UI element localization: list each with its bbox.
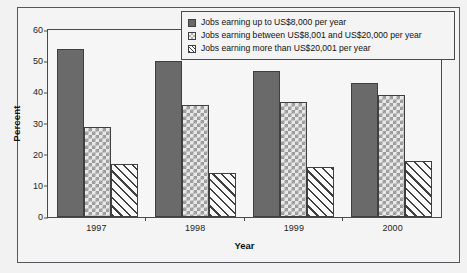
- legend-swatch-icon: [188, 19, 196, 27]
- x-axis-tick-label: 1998: [146, 223, 245, 233]
- legend-label: Jobs earning more than US$20,001 per yea…: [201, 44, 371, 53]
- bar: [57, 49, 84, 217]
- bar: [405, 161, 432, 217]
- legend-item: Jobs earning between US$8,001 and US$20,…: [188, 29, 448, 42]
- bar: [307, 167, 334, 217]
- y-axis-tick-label: 30: [33, 119, 48, 128]
- y-axis-tick-label: 10: [33, 181, 48, 190]
- chart-figure: Percent 0102030405060 1997199819992000 Y…: [0, 0, 467, 273]
- x-axis-tick-labels: 1997199819992000: [47, 223, 442, 233]
- y-axis-tick-label: 0: [38, 213, 48, 222]
- legend-label: Jobs earning up to US$8,000 per year: [201, 18, 346, 27]
- bar-group: [48, 30, 146, 217]
- y-axis-tick-label: 50: [33, 57, 48, 66]
- y-axis-tick-label: 20: [33, 150, 48, 159]
- x-axis-title: Year: [47, 240, 442, 251]
- bar: [155, 61, 182, 217]
- bar: [182, 105, 209, 217]
- legend-swatch-icon: [188, 32, 196, 40]
- bar: [84, 127, 111, 217]
- y-axis-title-text: Percent: [11, 105, 22, 141]
- legend-swatch-icon: [188, 45, 196, 53]
- bar: [209, 173, 236, 217]
- y-axis-title: Percent: [9, 29, 23, 218]
- bar: [280, 102, 307, 217]
- y-axis-tick-label: 40: [33, 88, 48, 97]
- x-axis-tick-mark: [342, 217, 343, 221]
- x-axis-tick-label: 1997: [47, 223, 146, 233]
- y-axis-tick-label: 60: [33, 26, 48, 35]
- legend-item: Jobs earning up to US$8,000 per year: [188, 16, 448, 29]
- x-axis-tick-mark: [145, 217, 146, 221]
- legend-label: Jobs earning between US$8,001 and US$20,…: [201, 31, 422, 40]
- bar: [378, 95, 405, 217]
- x-axis-tick-label: 1999: [245, 223, 344, 233]
- bar: [253, 71, 280, 217]
- x-axis-tick-mark: [244, 217, 245, 221]
- bar: [351, 83, 378, 217]
- x-axis-tick-label: 2000: [343, 223, 442, 233]
- chart-legend: Jobs earning up to US$8,000 per yearJobs…: [181, 11, 455, 60]
- legend-item: Jobs earning more than US$20,001 per yea…: [188, 42, 448, 55]
- bar: [111, 164, 138, 217]
